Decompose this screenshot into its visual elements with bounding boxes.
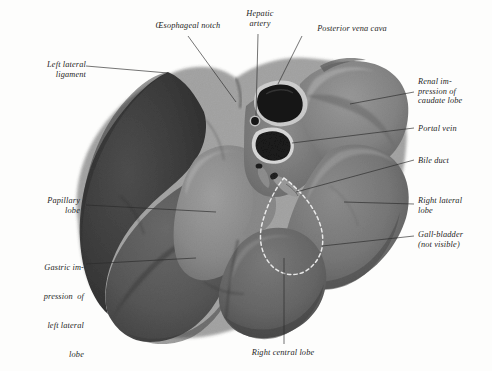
label-renal-impression: Renal im-pression ofcaudate lobe bbox=[418, 77, 490, 106]
hepatic-artery-opening bbox=[250, 116, 261, 127]
label-gastric-impression: Gastric im- pression of left lateral lob… bbox=[4, 244, 84, 371]
leader-left-lateral-ligament bbox=[86, 66, 168, 73]
gastric-impression-line-1: Gastric im- bbox=[4, 263, 84, 273]
label-left-lateral-ligament: Left lateralligament bbox=[8, 60, 86, 79]
label-portal-vein: Portal vein bbox=[418, 124, 490, 134]
liver-specimen bbox=[77, 58, 409, 344]
label-right-central-lobe: Right central lobe bbox=[228, 348, 338, 358]
gastric-impression-line-2: pression of bbox=[4, 292, 84, 302]
label-bile-duct: Bile duct bbox=[418, 156, 490, 166]
anatomical-plate: Œsophageal notch Hepaticartery Posterior… bbox=[0, 0, 492, 371]
label-gall-bladder: Gall-bladder(not visible) bbox=[418, 230, 492, 249]
portal-vein-opening bbox=[252, 128, 294, 164]
label-hepatic-artery: Hepaticartery bbox=[238, 9, 282, 28]
gastric-impression-line-3: left lateral bbox=[4, 321, 84, 331]
label-papillary-lobe: Papillarylobe bbox=[6, 196, 80, 215]
label-posterior-vena-cava: Posterior vena cava bbox=[296, 24, 408, 34]
label-oesophageal-notch: Œsophageal notch bbox=[136, 21, 240, 31]
label-right-lateral-lobe: Right laterallobe bbox=[418, 196, 492, 215]
gastric-impression-line-4: lobe bbox=[4, 350, 84, 360]
